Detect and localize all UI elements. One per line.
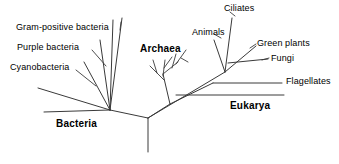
archaea-twig-4b [181, 58, 188, 62]
eukarya-branch-ciliates [225, 18, 232, 72]
phylogenetic-tree-figure: Gram-positive bacteria Purple bacteria C… [0, 0, 339, 164]
taxon-label-flagellates: Flagellates [286, 76, 331, 87]
eukarya-branch-animals [214, 40, 225, 72]
bacteria-trunk-branch [110, 110, 148, 118]
leader-purple-bacteria [92, 50, 106, 66]
eukarya-branch-green-plants [225, 46, 256, 72]
taxon-label-green-plants: Green plants [257, 38, 310, 49]
domain-label-archaea: Archaea [140, 43, 181, 55]
archaea-stem-branch [163, 74, 170, 104]
taxon-label-animals: Animals [192, 27, 225, 38]
archaea-twig-2b [164, 57, 172, 68]
domain-label-bacteria: Bacteria [56, 118, 97, 130]
taxon-label-gram-positive-bacteria: Gram-positive bacteria [16, 22, 109, 33]
eukarya-baseline-branch [170, 83, 213, 104]
taxon-label-ciliates: Ciliates [224, 3, 254, 14]
archaea-twig-3b [172, 54, 176, 68]
bacteria-branch-long-diagonal [38, 88, 110, 110]
taxon-label-fungi: Fungi [271, 53, 294, 64]
bacteria-branch-horizontal [44, 110, 110, 112]
taxon-label-purple-bacteria: Purple bacteria [17, 42, 79, 53]
bacteria-branch-purple [100, 40, 110, 110]
taxon-label-cyanobacteria: Cyanobacteria [10, 62, 69, 73]
domain-label-eukarya: Eukarya [230, 100, 270, 112]
